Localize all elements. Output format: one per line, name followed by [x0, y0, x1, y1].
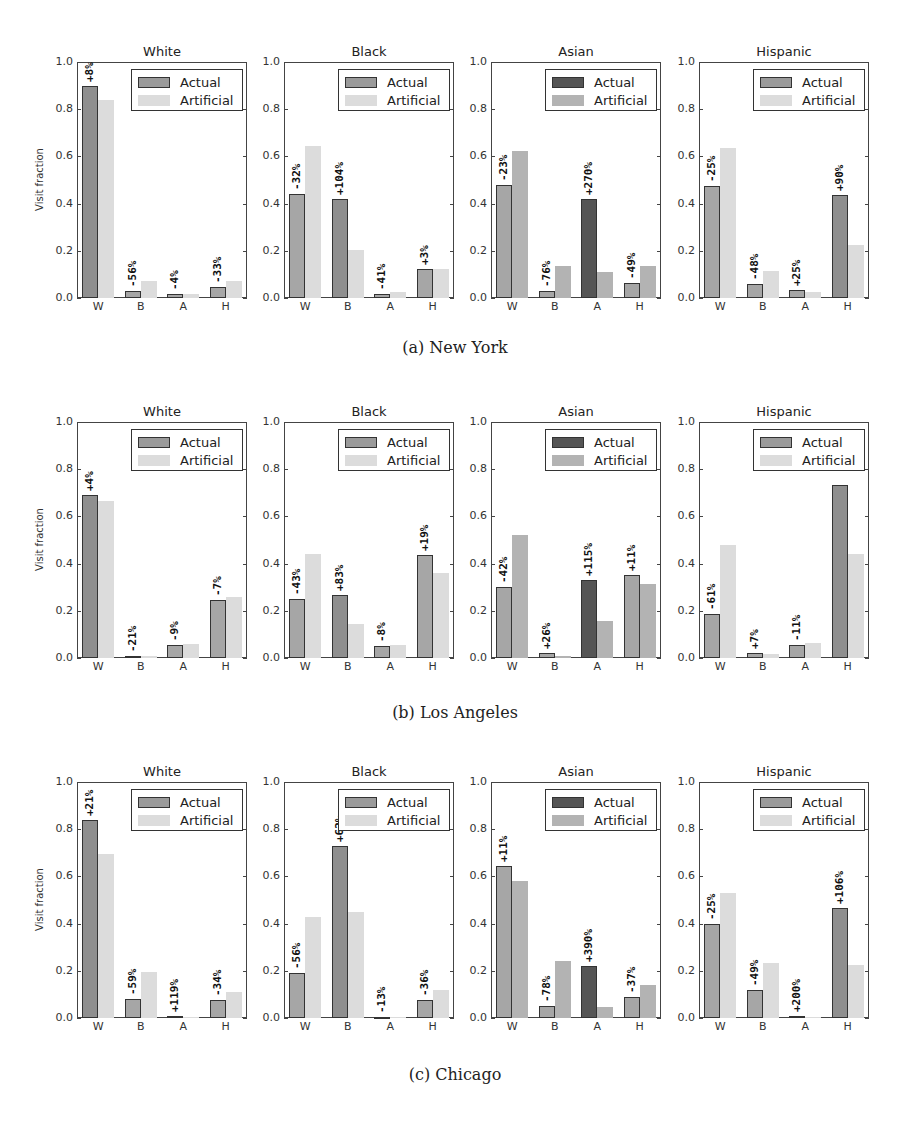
- y-tick-mark: [657, 422, 661, 423]
- bar-artificial-A: [805, 292, 821, 298]
- y-tick-label: 0.8: [250, 462, 280, 475]
- x-tick-label: H: [838, 300, 858, 313]
- y-tick-mark: [491, 971, 495, 972]
- legend-label-actual: Actual: [387, 795, 428, 810]
- y-tick-mark: [699, 298, 703, 299]
- y-tick-mark: [491, 924, 495, 925]
- legend-label-artificial: Artificial: [594, 813, 647, 828]
- bar-artificial-W: [305, 146, 321, 298]
- y-tick-mark: [243, 1018, 247, 1019]
- bar-artificial-W: [98, 854, 114, 1018]
- y-tick-label: 0.6: [457, 509, 487, 522]
- legend-item-actual: Actual: [552, 795, 635, 809]
- bar-artificial-W: [512, 535, 528, 658]
- legend-swatch-actual: [138, 77, 170, 88]
- percent-change-label: -36%: [418, 970, 431, 997]
- bar-actual-B: [539, 1006, 555, 1018]
- y-tick-label: 0.6: [665, 149, 695, 162]
- legend-swatch-artificial: [552, 815, 584, 826]
- percent-change-label: -33%: [211, 257, 224, 284]
- y-tick-mark: [657, 298, 661, 299]
- legend-swatch-artificial: [552, 95, 584, 106]
- bar-actual-H: [624, 575, 640, 658]
- y-tick-label: 0.0: [250, 291, 280, 304]
- percent-change-label: -78%: [540, 976, 553, 1003]
- y-tick-mark: [865, 1018, 869, 1019]
- y-tick-label: 0.4: [43, 917, 73, 930]
- y-tick-mark: [491, 422, 495, 423]
- x-tick-label: H: [423, 660, 443, 673]
- y-tick-mark: [284, 876, 288, 877]
- y-tick-label: 0.2: [250, 604, 280, 617]
- y-tick-mark: [243, 251, 247, 252]
- y-tick-mark: [450, 298, 454, 299]
- y-tick-mark: [284, 62, 288, 63]
- y-tick-label: 0.6: [665, 509, 695, 522]
- y-tick-mark: [243, 924, 247, 925]
- y-tick-label: 1.0: [665, 775, 695, 788]
- bar-artificial-H: [640, 584, 656, 658]
- y-tick-label: 1.0: [43, 415, 73, 428]
- y-tick-mark: [243, 204, 247, 205]
- legend-swatch-artificial: [552, 455, 584, 466]
- percent-change-label: +83%: [333, 565, 346, 592]
- x-tick-label: B: [131, 300, 151, 313]
- x-tick-label: H: [630, 1020, 650, 1033]
- bar-artificial-W: [98, 501, 114, 658]
- bar-actual-W: [704, 924, 720, 1018]
- bar-actual-W: [704, 186, 720, 298]
- legend-label-artificial: Artificial: [802, 93, 855, 108]
- x-tick-label: W: [88, 1020, 108, 1033]
- y-tick-mark: [865, 156, 869, 157]
- y-tick-mark: [77, 516, 81, 517]
- y-tick-mark: [865, 298, 869, 299]
- y-tick-mark: [450, 924, 454, 925]
- x-tick-label: H: [423, 300, 443, 313]
- y-tick-label: 0.6: [43, 869, 73, 882]
- y-tick-mark: [699, 469, 703, 470]
- y-tick-mark: [657, 876, 661, 877]
- legend-swatch-actual: [552, 437, 584, 448]
- legend-swatch-actual: [760, 77, 792, 88]
- x-tick-label: A: [380, 1020, 400, 1033]
- y-tick-label: 0.0: [43, 1011, 73, 1024]
- legend-swatch-actual: [345, 77, 377, 88]
- bar-actual-H: [624, 997, 640, 1018]
- percent-change-label: -8%: [375, 622, 388, 642]
- x-tick-label: A: [587, 1020, 607, 1033]
- percent-change-label: -9%: [168, 621, 181, 641]
- percent-change-label: +19%: [418, 525, 431, 552]
- bar-actual-W: [704, 614, 720, 658]
- y-tick-mark: [491, 156, 495, 157]
- legend-item-artificial: Artificial: [345, 813, 440, 827]
- y-tick-mark: [491, 204, 495, 205]
- y-tick-mark: [865, 782, 869, 783]
- y-tick-mark: [77, 564, 81, 565]
- x-tick-label: W: [295, 1020, 315, 1033]
- y-tick-label: 0.4: [665, 197, 695, 210]
- y-tick-mark: [284, 829, 288, 830]
- y-tick-mark: [699, 156, 703, 157]
- y-tick-label: 0.8: [665, 462, 695, 475]
- bar-artificial-A: [597, 621, 613, 658]
- bar-artificial-A: [597, 272, 613, 298]
- y-tick-mark: [865, 876, 869, 877]
- y-tick-mark: [657, 829, 661, 830]
- bar-actual-H: [210, 600, 226, 658]
- legend-item-actual: Actual: [345, 75, 428, 89]
- legend-label-artificial: Artificial: [387, 813, 440, 828]
- y-tick-label: 0.2: [250, 964, 280, 977]
- bar-artificial-A: [805, 643, 821, 658]
- bar-artificial-H: [226, 281, 242, 298]
- bar-actual-B: [332, 199, 348, 298]
- legend-swatch-actual: [345, 797, 377, 808]
- percent-change-label: -23%: [497, 154, 510, 181]
- bar-actual-A: [374, 1017, 390, 1019]
- bar-actual-W: [496, 587, 512, 658]
- y-tick-label: 1.0: [457, 55, 487, 68]
- y-tick-mark: [77, 298, 81, 299]
- legend-label-actual: Actual: [802, 435, 843, 450]
- percent-change-label: +106%: [833, 871, 846, 904]
- y-tick-mark: [657, 1018, 661, 1019]
- y-tick-label: 0.0: [250, 651, 280, 664]
